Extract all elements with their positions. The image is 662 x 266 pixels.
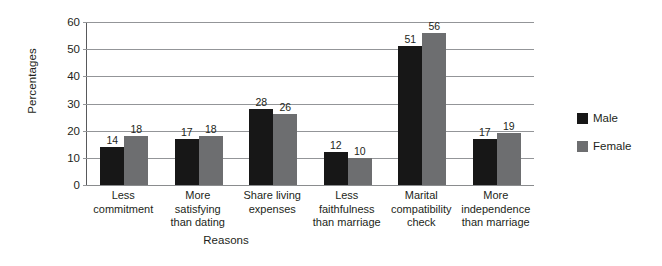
y-tick-mark xyxy=(83,185,87,186)
legend-label: Female xyxy=(593,140,631,152)
bar-value-label: 18 xyxy=(130,123,142,135)
bar-group: 5156 xyxy=(385,22,460,185)
bar-value-label: 56 xyxy=(428,20,440,32)
bar-value-label: 12 xyxy=(330,139,342,151)
x-axis-title: Reasons xyxy=(86,234,366,246)
x-axis-category-label: Share livingexpenses xyxy=(235,189,310,230)
x-axis-category-label: Lessfaithfulnessthan marriage xyxy=(310,189,385,230)
legend: MaleFemale xyxy=(577,112,631,168)
x-axis-category-label: Moreindependencethan marriage xyxy=(459,189,534,230)
bar-value-label: 26 xyxy=(279,101,291,113)
bar-male[interactable]: 12 xyxy=(324,152,348,185)
bar-value-label: 17 xyxy=(181,126,193,138)
bar-male[interactable]: 17 xyxy=(175,139,199,185)
legend-item-female[interactable]: Female xyxy=(577,140,631,152)
bar-male[interactable]: 51 xyxy=(398,46,422,185)
x-axis-category-labels: LesscommitmentMoresatisfyingthan datingS… xyxy=(86,189,533,230)
legend-label: Male xyxy=(593,112,618,124)
bar-group: 2826 xyxy=(236,22,311,185)
bar-value-label: 14 xyxy=(106,134,118,146)
bar-female[interactable]: 18 xyxy=(199,136,223,185)
y-tick-label: 50 xyxy=(67,43,80,55)
bar-value-label: 17 xyxy=(479,126,491,138)
bar-group: 1210 xyxy=(311,22,386,185)
bar-value-label: 51 xyxy=(404,33,416,45)
x-axis-category-label: Lesscommitment xyxy=(86,189,161,230)
bar-chart-figure: Percentages 0102030405060 14181718282612… xyxy=(0,0,662,266)
bar-group: 1418 xyxy=(87,22,162,185)
bar-female[interactable]: 56 xyxy=(422,33,446,185)
y-tick-label: 10 xyxy=(67,152,80,164)
legend-swatch-male xyxy=(577,113,588,124)
x-axis-category-label: Moresatisfyingthan dating xyxy=(161,189,236,230)
legend-swatch-female xyxy=(577,141,588,152)
bar-group: 1719 xyxy=(460,22,535,185)
bar-female[interactable]: 19 xyxy=(497,133,521,185)
x-axis-category-label: Maritalcompatibilitycheck xyxy=(384,189,459,230)
bar-value-label: 19 xyxy=(503,120,515,132)
bar-male[interactable]: 28 xyxy=(249,109,273,185)
bar-female[interactable]: 10 xyxy=(348,158,372,185)
bar-male[interactable]: 14 xyxy=(100,147,124,185)
bar-female[interactable]: 26 xyxy=(273,114,297,185)
y-tick-label: 60 xyxy=(67,16,80,28)
y-tick-label: 20 xyxy=(67,125,80,137)
plot-area: 0102030405060 141817182826121051561719 xyxy=(86,22,534,186)
y-axis-title: Percentages xyxy=(26,1,38,161)
bar-value-label: 10 xyxy=(354,145,366,157)
y-tick-label: 0 xyxy=(74,179,80,191)
y-tick-label: 30 xyxy=(67,98,80,110)
bar-male[interactable]: 17 xyxy=(473,139,497,185)
bar-value-label: 18 xyxy=(205,123,217,135)
bar-female[interactable]: 18 xyxy=(124,136,148,185)
y-tick-label: 40 xyxy=(67,70,80,82)
bar-group: 1718 xyxy=(162,22,237,185)
bar-groups: 141817182826121051561719 xyxy=(87,22,534,185)
legend-item-male[interactable]: Male xyxy=(577,112,631,124)
bar-value-label: 28 xyxy=(255,96,267,108)
